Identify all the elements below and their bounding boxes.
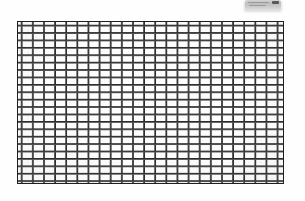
mesh-grid <box>17 21 284 184</box>
image-canvas <box>0 0 305 201</box>
corner-smudge-artifact <box>245 0 281 9</box>
smudge-dark-chip <box>272 1 279 4</box>
smudge-streak-upper <box>248 2 269 3</box>
grid-border <box>17 21 284 184</box>
smudge-streak-lower <box>249 5 266 6</box>
